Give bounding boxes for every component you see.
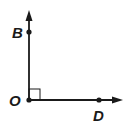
point-d <box>96 97 101 102</box>
point-b <box>26 29 31 34</box>
label-o: O <box>9 92 21 109</box>
point-o <box>26 97 31 102</box>
ray-ob <box>26 10 33 100</box>
ray-od <box>29 97 123 104</box>
right-angle-diagram: B O D <box>0 0 134 131</box>
arrowhead-up-icon <box>26 10 33 21</box>
label-b: B <box>12 24 23 41</box>
label-d: D <box>93 107 104 124</box>
arrowhead-right-icon <box>112 97 123 104</box>
